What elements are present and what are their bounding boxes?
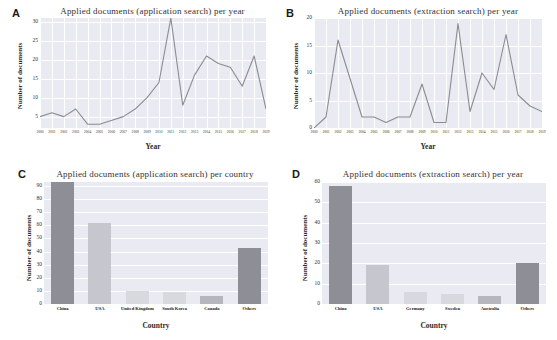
panel-b-letter: B	[286, 7, 294, 19]
y-tick-label: 10	[300, 281, 320, 287]
bar[interactable]	[404, 292, 427, 304]
x-tick-label: 2019	[533, 131, 551, 135]
x-tick-label: Others	[509, 307, 546, 312]
x-tick-label: USA	[359, 307, 396, 312]
panel-c-letter: C	[18, 168, 26, 180]
panel-d-y-ticks: 0102030405060	[300, 182, 320, 304]
y-tick-label: 40	[22, 249, 42, 255]
y-tick-label: 0	[294, 125, 312, 131]
y-tick-label: 60	[300, 179, 320, 185]
panel-d-xlabel: Country	[322, 321, 546, 330]
x-tick-label: 2019	[257, 131, 275, 135]
y-tick-label: 20	[294, 15, 312, 21]
x-tick-label: USA	[81, 307, 118, 312]
y-tick-label: 70	[22, 209, 42, 215]
x-tick-label: Others	[231, 307, 268, 312]
x-tick-label: South Korea	[156, 307, 193, 312]
x-tick-label: China	[322, 307, 359, 312]
y-tick-label: 5	[20, 114, 38, 120]
panel-a-y-ticks: 51015202530	[20, 18, 38, 128]
x-tick-label: Sweden	[434, 307, 471, 312]
bar[interactable]	[478, 296, 501, 304]
bar[interactable]	[163, 292, 186, 304]
y-tick-label: 50	[300, 199, 320, 205]
gridline-horizontal	[322, 284, 546, 285]
line-series	[40, 18, 266, 128]
x-tick-label: China	[44, 307, 81, 312]
y-tick-label: 30	[22, 262, 42, 268]
bar[interactable]	[441, 294, 464, 304]
x-tick-label: Canada	[193, 307, 230, 312]
y-tick-label: 80	[22, 196, 42, 202]
y-tick-label: 5	[294, 98, 312, 104]
gridline-horizontal	[322, 202, 546, 203]
bar[interactable]	[329, 186, 352, 304]
y-tick-label: 20	[22, 275, 42, 281]
y-tick-label: 60	[22, 222, 42, 228]
bar[interactable]	[516, 263, 539, 304]
panel-a-xlabel: Year	[40, 142, 266, 151]
gridline-horizontal	[44, 225, 268, 226]
x-tick-label: Germany	[397, 307, 434, 312]
bar[interactable]	[238, 248, 261, 304]
panel-c-title: Applied documents (application search) p…	[42, 169, 268, 179]
panel-c-x-ticks: ChinaUSAUnited KingdomSouth KoreaCanadaO…	[44, 307, 268, 315]
y-tick-label: 0	[300, 301, 320, 307]
gridline-horizontal	[44, 199, 268, 200]
gridline-horizontal	[322, 243, 546, 244]
x-tick-label: Australia	[471, 307, 508, 312]
gridline-horizontal	[44, 212, 268, 213]
y-tick-label: 0	[22, 301, 42, 307]
panel-d-letter: D	[292, 168, 300, 180]
gridline-horizontal	[322, 182, 546, 183]
panel-d-plot-area	[322, 182, 546, 304]
y-tick-label: 30	[20, 19, 38, 25]
bar[interactable]	[366, 265, 389, 304]
panel-c-y-ticks: 0102030405060708090	[22, 182, 42, 304]
panel-a-letter: A	[12, 7, 20, 19]
y-tick-label: 50	[22, 235, 42, 241]
panel-b-plot-area	[314, 18, 542, 128]
y-tick-label: 20	[300, 260, 320, 266]
panel-b: B Applied documents (extraction search) …	[278, 0, 557, 160]
panel-d: D Applied documents (extraction search) …	[278, 160, 557, 340]
y-tick-label: 30	[300, 240, 320, 246]
panel-c: C Applied documents (application search)…	[0, 160, 278, 340]
bar[interactable]	[88, 223, 111, 304]
gridline-horizontal	[44, 238, 268, 239]
panel-d-title: Applied documents (extraction search) pe…	[320, 169, 546, 179]
y-tick-label: 25	[20, 38, 38, 44]
panel-b-title: Applied documents (extraction search) pe…	[314, 6, 542, 16]
gridline-horizontal	[44, 252, 268, 253]
panel-d-x-ticks: ChinaUSAGermanySwedenAustraliaOthers	[322, 307, 546, 315]
gridline-horizontal	[44, 291, 268, 292]
panel-a-title: Applied documents (application search) p…	[40, 6, 265, 16]
bar[interactable]	[51, 182, 74, 304]
gridline-horizontal	[44, 278, 268, 279]
gridline-horizontal	[322, 223, 546, 224]
x-tick-label: United Kingdom	[119, 307, 156, 312]
y-tick-label: 10	[20, 95, 38, 101]
panel-a-plot-area	[40, 18, 266, 128]
panel-c-plot-area	[44, 182, 268, 304]
y-tick-label: 15	[20, 76, 38, 82]
panel-b-x-ticks: 2000200120022003200420052006200720082009…	[314, 131, 542, 139]
panel-a-x-ticks: 2000200120022003200420052006200720082009…	[40, 131, 266, 139]
gridline-horizontal	[44, 265, 268, 266]
line-series	[314, 18, 542, 128]
y-tick-label: 10	[22, 288, 42, 294]
gridline-horizontal	[44, 186, 268, 187]
y-tick-label: 15	[294, 43, 312, 49]
y-tick-label: 90	[22, 183, 42, 189]
gridline-horizontal	[322, 263, 546, 264]
bar[interactable]	[200, 296, 223, 304]
figure-panel-grid: A Applied documents (application search)…	[0, 0, 557, 340]
panel-b-y-ticks: 05101520	[294, 18, 312, 128]
y-tick-label: 40	[300, 220, 320, 226]
panel-b-xlabel: Year	[314, 142, 542, 151]
y-tick-label: 20	[20, 57, 38, 63]
panel-a: A Applied documents (application search)…	[0, 0, 278, 160]
panel-c-xlabel: Country	[44, 321, 268, 330]
y-tick-label: 10	[294, 70, 312, 76]
bar[interactable]	[126, 291, 149, 304]
